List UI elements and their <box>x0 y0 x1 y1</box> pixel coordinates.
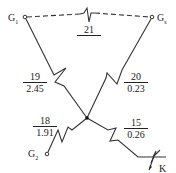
fault-point-label: K <box>159 164 166 173</box>
g1-label: G1 <box>8 13 18 27</box>
junction-node <box>85 116 89 120</box>
branch-20-label: 200.23 <box>124 71 148 94</box>
branch-21-label: 21 <box>77 24 101 36</box>
gs-terminal <box>150 15 154 19</box>
branch-15-label: 150.26 <box>124 117 148 140</box>
g2-label: G2 <box>28 149 38 163</box>
equivalent-circuit-diagram: G1 Gs G2 K 21 192.45 200.23 181.91 150.2… <box>0 0 176 173</box>
branch-18-label: 181.91 <box>33 115 57 138</box>
gs-label: Gs <box>157 13 167 27</box>
g2-terminal <box>45 152 49 156</box>
g1-terminal <box>23 15 27 19</box>
branch-19-label: 192.45 <box>23 71 47 94</box>
